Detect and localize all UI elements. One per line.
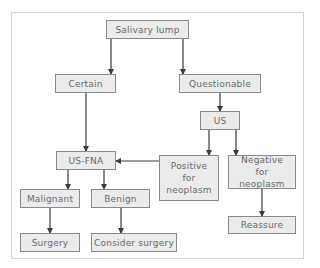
node-consider-surgery: Consider surgery — [91, 233, 177, 252]
node-negative-for-neoplasm: Negative for neoplasm — [228, 155, 296, 189]
node-reassure: Reassure — [228, 216, 296, 234]
node-positive-for-neoplasm: Positive for neoplasm — [159, 155, 219, 201]
node-certain: Certain — [55, 74, 116, 93]
node-questionable: Questionable — [179, 74, 261, 93]
node-surgery: Surgery — [20, 233, 80, 252]
node-us-fna: US-FNA — [56, 151, 116, 170]
node-benign: Benign — [91, 189, 150, 208]
node-us: US — [200, 111, 240, 130]
node-malignant: Malignant — [20, 189, 80, 208]
node-salivary-lump: Salivary lump — [106, 20, 189, 39]
